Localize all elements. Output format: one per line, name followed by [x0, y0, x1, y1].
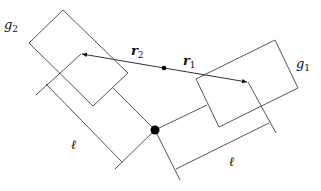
- hinge-to-g2-line: [113, 88, 155, 130]
- rectangle-g1: [196, 40, 298, 127]
- hinge-dot: [151, 126, 160, 135]
- dimension-line-left: [46, 84, 122, 162]
- hinge-to-g1-line: [155, 105, 207, 130]
- label-g1: g1: [296, 56, 310, 73]
- vector-r1: [164, 68, 247, 82]
- label-length-left: ℓ: [71, 137, 77, 152]
- diagram-canvas: g2 g1 r2 r1 ℓ ℓ: [0, 0, 321, 191]
- midpoint-dot: [162, 66, 167, 71]
- label-g2: g2: [4, 17, 18, 34]
- vector-r2: [82, 54, 164, 68]
- rectangle-g2: [29, 10, 128, 106]
- label-length-right: ℓ: [229, 154, 235, 169]
- label-r1: r1: [183, 53, 196, 70]
- g2-perpendicular-line: [36, 54, 81, 95]
- g1-perpendicular-line: [248, 82, 276, 133]
- hinge-extension-left: [115, 130, 155, 169]
- hinge-extension-right: [155, 130, 180, 180]
- dimension-line-right: [176, 123, 269, 169]
- label-r2: r2: [131, 43, 144, 60]
